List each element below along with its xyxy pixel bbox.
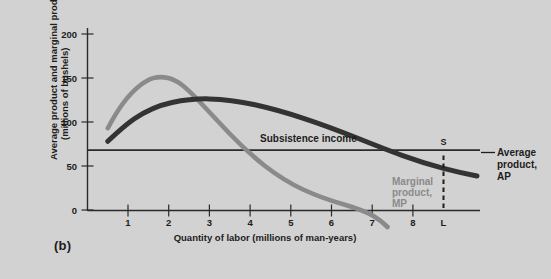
y-ticklabel-200: 200 xyxy=(61,29,77,40)
mp-label-line2: product, xyxy=(392,187,432,198)
mp-curve xyxy=(108,77,388,227)
y-ticklabel-50: 50 xyxy=(66,161,77,172)
y-ticklabel-100: 100 xyxy=(61,117,77,128)
economics-chart: Average product and marginal product (mi… xyxy=(0,0,551,279)
ap-label-line2: product, xyxy=(497,159,537,170)
x-ticklabel-2: 2 xyxy=(166,217,171,228)
y-ticklabel-0: 0 xyxy=(72,205,77,216)
subsistence-income-label: Subsistence income xyxy=(260,133,357,144)
mp-label-line3: MP xyxy=(392,198,407,209)
x-ticklabel-3: 3 xyxy=(207,217,212,228)
x-axis-title: Quantity of labor (millions of man-years… xyxy=(174,232,357,243)
x-ticklabel-1: 1 xyxy=(125,217,131,228)
mp-label-line1: Marginal xyxy=(392,176,433,187)
x-ticklabel-4: 4 xyxy=(247,217,253,228)
x-ticklabel-8: 8 xyxy=(410,217,415,228)
point-s-label: S xyxy=(440,137,446,147)
figure-panel: Average product and marginal product (mi… xyxy=(0,0,551,279)
x-axis-label-L: L xyxy=(441,217,447,228)
panel-label: (b) xyxy=(54,238,71,253)
ap-label-line1: Average xyxy=(497,147,537,158)
x-ticklabel-5: 5 xyxy=(288,217,294,228)
ap-label-line3: AP xyxy=(497,171,511,182)
y-ticklabel-150: 150 xyxy=(61,73,77,84)
y-axis-label-line1: Average product and marginal product xyxy=(48,0,59,160)
x-ticklabel-6: 6 xyxy=(329,217,334,228)
